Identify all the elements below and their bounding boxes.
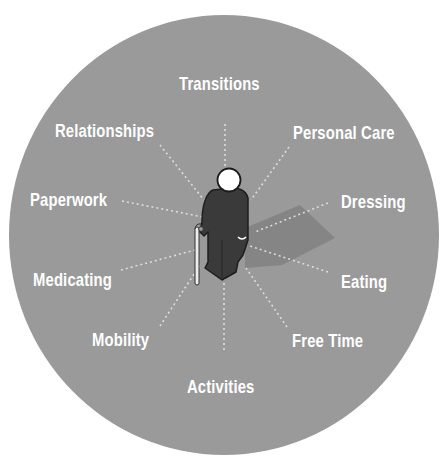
figure-body — [200, 188, 248, 280]
label-relationships: Relationships — [55, 121, 154, 141]
label-mobility: Mobility — [92, 330, 149, 350]
spoke-medicating — [121, 250, 195, 270]
diagram-canvas: Transitions Personal Care Dressing Eatin… — [0, 0, 448, 466]
label-transitions: Transitions — [179, 74, 260, 94]
elderly-person-icon — [195, 169, 248, 286]
label-medicating: Medicating — [33, 270, 112, 290]
spoke-free-time — [246, 268, 287, 327]
label-eating: Eating — [341, 272, 387, 292]
label-paperwork: Paperwork — [30, 190, 107, 210]
label-free-time: Free Time — [292, 331, 363, 351]
cane-icon — [195, 227, 199, 285]
spoke-relationships — [160, 145, 204, 200]
spoke-paperwork — [122, 201, 203, 217]
spoke-personal-care — [251, 147, 289, 200]
head-icon — [218, 169, 241, 192]
spoke-mobility — [160, 265, 200, 326]
label-activities: Activities — [187, 377, 254, 397]
label-dressing: Dressing — [341, 192, 406, 212]
label-personal-care: Personal Care — [293, 123, 395, 143]
